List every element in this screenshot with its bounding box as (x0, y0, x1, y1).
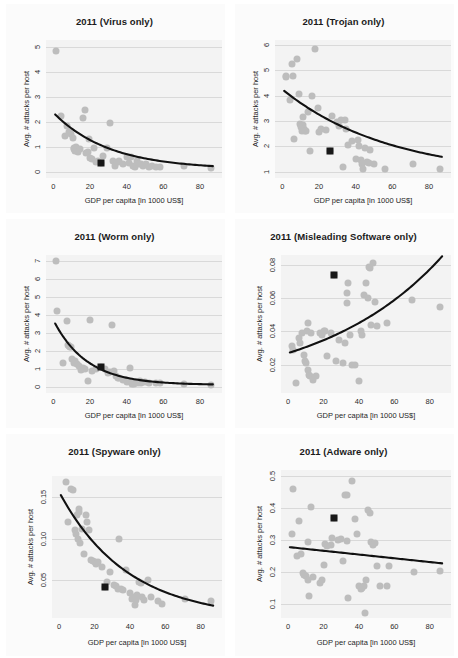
y-axis-tick-label: 0 (33, 170, 42, 174)
x-axis-tick-label: 0 (57, 622, 61, 631)
fit-curve (52, 476, 222, 618)
x-axis-label: GDP per capita [in 1000 US$] (314, 196, 413, 205)
panel-1: 2011 (Virus only)012345020406080Avg. # a… (0, 0, 229, 215)
fit-curve (281, 470, 451, 618)
x-axis-tick-label: 0 (51, 397, 55, 406)
y-axis-label: Avg. # attacks per host (251, 71, 260, 147)
y-axis-tick-label: 4 (33, 70, 42, 74)
panel-6: 2011 (Adware only)0.10.20.30.40.50204060… (229, 430, 458, 658)
panel-5: 2011 (Spyware only)0.050.100.15020406080… (0, 430, 229, 658)
x-axis-label: GDP per capita [in 1000 US$] (317, 411, 416, 420)
highlight-marker (327, 148, 334, 155)
highlight-marker (102, 584, 109, 591)
y-axis-tick-label: 0 (33, 385, 42, 389)
y-axis-tick-label: 2 (33, 120, 42, 124)
y-axis-tick-label: 7 (33, 259, 42, 263)
y-axis-tick-label: 4 (33, 313, 42, 317)
x-axis-tick-label: 80 (196, 182, 204, 191)
x-axis-tick-label: 40 (122, 397, 130, 406)
y-axis-tick-label: 0.06 (268, 291, 277, 306)
figure-grid: 2011 (Virus only)012345020406080Avg. # a… (0, 0, 458, 658)
y-axis-tick-label: 0.04 (268, 324, 277, 339)
x-axis-tick-label: 80 (426, 622, 434, 631)
x-axis-tick-label: 20 (315, 182, 323, 191)
fit-curve (46, 40, 222, 178)
x-axis-tick-label: 40 (122, 182, 130, 191)
y-axis-label: Avg. # attacks per host (26, 509, 35, 585)
x-axis-tick-label: 80 (425, 182, 433, 191)
fit-curve (46, 255, 222, 393)
y-axis-tick-label: 0.05 (39, 573, 48, 588)
x-axis-tick-label: 20 (319, 397, 327, 406)
y-axis-tick-label: 2 (33, 349, 42, 353)
panel-2: 2011 (Trojan only)123456020406080Avg. # … (229, 0, 458, 215)
panel-title: 2011 (Adware only) (229, 446, 458, 457)
x-axis-tick-label: 80 (426, 397, 434, 406)
x-axis-label: GDP per capita [in 1000 US$] (85, 411, 184, 420)
y-axis-tick-label: 4 (262, 94, 271, 98)
y-axis-tick-label: 1 (33, 367, 42, 371)
x-axis-tick-label: 0 (51, 182, 55, 191)
y-axis-tick-label: 0.02 (268, 357, 277, 372)
x-axis-tick-label: 0 (280, 182, 284, 191)
panel-title: 2011 (Trojan only) (229, 16, 458, 27)
y-axis-tick-label: 3 (33, 95, 42, 99)
panel-3: 2011 (Worm only)01234567020406080Avg. # … (0, 215, 229, 430)
y-axis-tick-label: 0.2 (268, 567, 277, 577)
x-axis-tick-label: 80 (196, 397, 204, 406)
plot-area (281, 255, 451, 393)
y-axis-tick-label: 5 (33, 295, 42, 299)
x-axis-tick-label: 20 (86, 182, 94, 191)
y-axis-tick-label: 0.4 (268, 503, 277, 513)
x-axis-tick-label: 40 (355, 622, 363, 631)
y-axis-label: Avg. # attacks per host (255, 506, 264, 582)
y-axis-tick-label: 0.15 (39, 490, 48, 505)
y-axis-label: Avg. # attacks per host (22, 286, 31, 362)
x-axis-tick-label: 40 (355, 397, 363, 406)
fit-curve (275, 40, 451, 178)
y-axis-tick-label: 0.08 (268, 258, 277, 273)
highlight-marker (98, 160, 105, 167)
plot-area (275, 40, 451, 178)
y-axis-tick-label: 6 (33, 277, 42, 281)
highlight-marker (331, 271, 338, 278)
x-axis-tick-label: 60 (388, 182, 396, 191)
y-axis-tick-label: 0.10 (39, 531, 48, 546)
x-axis-tick-label: 60 (159, 397, 167, 406)
panel-4: 2011 (Misleading Software only)0.020.040… (229, 215, 458, 430)
y-axis-tick-label: 5 (33, 45, 42, 49)
y-axis-tick-label: 0.5 (268, 471, 277, 481)
x-axis-label: GDP per capita [in 1000 US$] (317, 638, 416, 647)
panel-title: 2011 (Virus only) (0, 16, 229, 27)
x-axis-tick-label: 40 (351, 182, 359, 191)
y-axis-tick-label: 0.1 (268, 598, 277, 608)
x-axis-tick-label: 0 (286, 397, 290, 406)
x-axis-tick-label: 0 (286, 622, 290, 631)
highlight-marker (331, 514, 338, 521)
x-axis-tick-label: 60 (390, 622, 398, 631)
panel-title: 2011 (Worm only) (0, 231, 229, 242)
y-axis-tick-label: 0.3 (268, 535, 277, 545)
fit-curve (281, 255, 451, 393)
plot-area (281, 470, 451, 618)
highlight-marker (98, 364, 105, 371)
x-axis-label: GDP per capita [in 1000 US$] (85, 196, 184, 205)
plot-area (46, 255, 222, 393)
x-axis-tick-label: 20 (90, 622, 98, 631)
plot-area (46, 40, 222, 178)
x-axis-tick-label: 20 (86, 397, 94, 406)
y-axis-tick-label: 1 (33, 145, 42, 149)
y-axis-tick-label: 6 (262, 43, 271, 47)
panel-title: 2011 (Misleading Software only) (229, 231, 458, 242)
y-axis-tick-label: 2 (262, 144, 271, 148)
x-axis-tick-label: 60 (161, 622, 169, 631)
y-axis-tick-label: 1 (262, 170, 271, 174)
x-axis-tick-label: 60 (159, 182, 167, 191)
y-axis-tick-label: 3 (33, 331, 42, 335)
x-axis-label: GDP per capita [in 1000 US$] (88, 638, 187, 647)
y-axis-tick-label: 3 (262, 119, 271, 123)
x-axis-tick-label: 40 (126, 622, 134, 631)
x-axis-tick-label: 60 (390, 397, 398, 406)
plot-area (52, 476, 222, 618)
y-axis-label: Avg. # attacks per host (22, 71, 31, 147)
